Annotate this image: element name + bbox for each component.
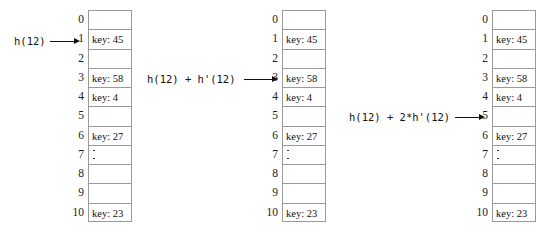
table-row: key: 23 (493, 204, 535, 223)
row-index: 9 (468, 183, 490, 202)
table-row: key: 4 (493, 88, 535, 107)
table-row (283, 11, 325, 30)
table-second-probe-index-column: 0 1 2 3 4 5 6 7 8 9 10 (258, 10, 280, 222)
row-index: 9 (64, 183, 86, 202)
table-row-ellipsis (283, 146, 325, 165)
row-index: 2 (258, 49, 280, 68)
table-row: key: 4 (89, 88, 131, 107)
row-index: 8 (468, 164, 490, 183)
table-row (89, 50, 131, 69)
row-index: 8 (64, 164, 86, 183)
table-row (283, 107, 325, 126)
table-row (493, 107, 535, 126)
table-row (493, 50, 535, 69)
row-index: 3 (258, 68, 280, 87)
row-index: 10 (64, 203, 86, 222)
row-index: 7 (64, 145, 86, 164)
table-row: key: 45 (283, 30, 325, 49)
table-row: key: 23 (89, 204, 131, 223)
table-row (89, 184, 131, 203)
row-index: 3 (64, 68, 86, 87)
table-row (283, 184, 325, 203)
table-row (493, 184, 535, 203)
table-row (89, 11, 131, 30)
row-index: 5 (258, 106, 280, 125)
row-index: 3 (468, 68, 490, 87)
table-third-probe-index-column: 0 1 2 3 4 5 6 7 8 9 10 (468, 10, 490, 222)
table-first-probe-slots: key: 45 key: 58 key: 4 key: 27 key: 23 (88, 10, 132, 222)
table-row: key: 27 (283, 127, 325, 146)
row-index: 6 (64, 126, 86, 145)
row-index: 1 (258, 29, 280, 48)
table-row: key: 58 (89, 69, 131, 88)
row-index: 1 (468, 29, 490, 48)
row-index: 8 (258, 164, 280, 183)
row-index: 7 (468, 145, 490, 164)
probe-1-label: h(12) (14, 35, 46, 47)
row-index: 10 (468, 203, 490, 222)
row-index: 4 (468, 87, 490, 106)
row-index: 9 (258, 183, 280, 202)
table-row (283, 50, 325, 69)
table-third-probe-slots: key: 45 key: 58 key: 4 key: 27 key: 23 (492, 10, 536, 222)
table-row: key: 45 (89, 30, 131, 49)
table-row (89, 165, 131, 184)
row-index: 4 (258, 87, 280, 106)
table-row: key: 45 (493, 30, 535, 49)
table-row-ellipsis (89, 146, 131, 165)
row-index: 4 (64, 87, 86, 106)
figure-canvas: h(12) 0 1 2 3 4 5 6 7 8 9 10 key: 45 key… (0, 0, 551, 232)
table-row (493, 11, 535, 30)
probe-3-label: h(12) + 2*h'(12) (349, 111, 450, 123)
table-row-ellipsis (493, 146, 535, 165)
row-index: 6 (468, 126, 490, 145)
table-first-probe-index-column: 0 1 2 3 4 5 6 7 8 9 10 (64, 10, 86, 222)
row-index: 0 (64, 10, 86, 29)
row-index: 2 (64, 49, 86, 68)
row-index: 7 (258, 145, 280, 164)
row-index: 0 (258, 10, 280, 29)
table-row (283, 165, 325, 184)
row-index: 5 (468, 106, 490, 125)
table-row: key: 23 (283, 204, 325, 223)
table-row: key: 27 (493, 127, 535, 146)
table-row: key: 4 (283, 88, 325, 107)
row-index: 1 (64, 29, 86, 48)
table-second-probe-slots: key: 45 key: 58 key: 4 key: 27 key: 23 (282, 10, 326, 222)
row-index: 0 (468, 10, 490, 29)
table-row (89, 107, 131, 126)
row-index: 6 (258, 126, 280, 145)
row-index: 2 (468, 49, 490, 68)
row-index: 5 (64, 106, 86, 125)
row-index: 10 (258, 203, 280, 222)
table-row: key: 27 (89, 127, 131, 146)
probe-2-label: h(12) + h'(12) (147, 73, 236, 85)
table-row (493, 165, 535, 184)
table-row: key: 58 (283, 69, 325, 88)
table-row: key: 58 (493, 69, 535, 88)
